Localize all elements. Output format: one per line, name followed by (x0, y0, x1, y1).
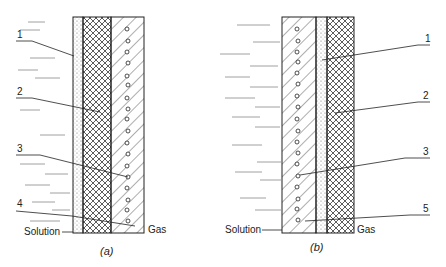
callout-a-2: 2 (17, 87, 23, 97)
callout-a-4: 4 (17, 199, 23, 209)
callout-b-5: 5 (423, 204, 429, 214)
solution-dashes-b (220, 25, 281, 210)
gas-label-b: Gas (357, 225, 375, 235)
callout-a-1: 1 (17, 30, 23, 40)
callout-b-2: 2 (423, 91, 429, 101)
caption-a: (a) (100, 245, 113, 257)
membrane-a (16, 17, 144, 233)
solution-label-a: Solution (24, 227, 60, 237)
membrane-b (262, 17, 430, 233)
gas-label-a: Gas (148, 225, 166, 235)
diagram-canvas (0, 0, 446, 267)
caption-b: (b) (310, 241, 323, 253)
callout-a-3: 3 (17, 144, 23, 154)
callout-b-3: 3 (423, 147, 429, 157)
callout-b-1: 1 (425, 34, 431, 44)
solution-label-b: Solution (225, 225, 261, 235)
